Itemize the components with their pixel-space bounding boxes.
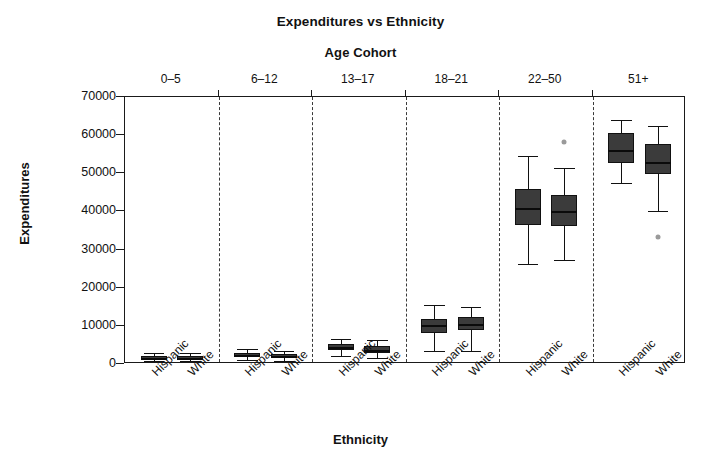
panel-label-4: 22–50 — [498, 72, 592, 86]
cap-lower — [648, 211, 668, 212]
y-axis-tick-mark — [116, 287, 124, 288]
panel-label-5: 51+ — [592, 72, 686, 86]
y-axis-tick-label: 30000 — [46, 242, 116, 256]
x-axis-title: Ethnicity — [0, 432, 721, 447]
y-axis-tick-label: 40000 — [46, 203, 116, 217]
y-axis-tick-label: 60000 — [46, 127, 116, 141]
y-axis-tick-label: 50000 — [46, 165, 116, 179]
median-line — [645, 162, 671, 164]
y-axis-tick-mark — [116, 363, 124, 364]
y-axis-tick-label: 20000 — [46, 280, 116, 294]
y-axis-tick-mark — [116, 96, 124, 97]
y-axis-tick-mark — [116, 249, 124, 250]
box-iqr — [645, 144, 671, 175]
panel-label-1: 6–12 — [218, 72, 312, 86]
whisker-upper — [658, 126, 659, 143]
y-axis-tick-mark — [116, 134, 124, 135]
whisker-lower — [658, 174, 659, 210]
y-axis-title: Expenditures — [17, 124, 32, 284]
y-axis-tick-label: 70000 — [46, 89, 116, 103]
y-axis-tick-label: 10000 — [46, 318, 116, 332]
plot-area — [124, 96, 685, 363]
y-axis-tick-mark — [116, 172, 124, 173]
panel-label-0: 0–5 — [124, 72, 218, 86]
y-axis-tick-mark — [116, 210, 124, 211]
cap-upper — [648, 126, 668, 127]
panel-label-3: 18–21 — [405, 72, 499, 86]
y-axis-tick-label: 0 — [46, 356, 116, 370]
panel-label-2: 13–17 — [311, 72, 405, 86]
outlier-point — [655, 234, 660, 239]
boxplot-figure: Expenditures vs Ethnicity Age Cohort 010… — [0, 0, 721, 466]
boxplot-51+-white — [125, 97, 686, 362]
y-axis-tick-mark — [116, 325, 124, 326]
y-axis-tick-labels: 010000200003000040000500006000070000 — [38, 0, 116, 466]
